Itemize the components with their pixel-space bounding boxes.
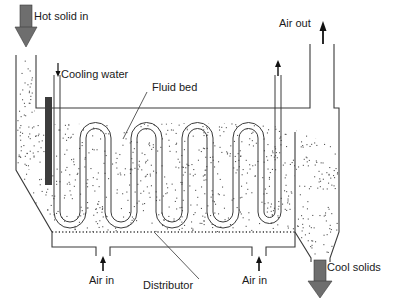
particle bbox=[173, 130, 174, 131]
particle bbox=[133, 218, 134, 219]
particle bbox=[38, 125, 39, 126]
particle bbox=[285, 162, 286, 163]
particle bbox=[330, 225, 331, 226]
particle bbox=[286, 210, 287, 211]
particle bbox=[171, 129, 172, 130]
particle bbox=[309, 233, 310, 234]
particle bbox=[303, 218, 304, 219]
particle bbox=[28, 127, 29, 128]
particle bbox=[299, 186, 300, 187]
particle bbox=[277, 157, 278, 158]
solid-particles-discharge bbox=[295, 128, 340, 258]
particle bbox=[199, 150, 200, 151]
particle bbox=[144, 203, 145, 204]
particle bbox=[259, 223, 260, 224]
particle bbox=[150, 174, 151, 175]
particle bbox=[145, 162, 146, 163]
solid-particles-chute bbox=[17, 59, 35, 171]
particle bbox=[26, 174, 27, 175]
particle bbox=[309, 226, 310, 227]
particle bbox=[222, 187, 223, 188]
particle bbox=[191, 228, 192, 229]
particle bbox=[70, 190, 71, 191]
particle bbox=[330, 232, 331, 233]
particle bbox=[183, 167, 184, 168]
particle bbox=[139, 201, 140, 202]
particle bbox=[161, 124, 162, 125]
particle bbox=[193, 175, 194, 176]
particle bbox=[58, 211, 59, 212]
particle bbox=[324, 216, 325, 217]
particle bbox=[141, 126, 142, 127]
particle bbox=[197, 197, 198, 198]
particle bbox=[262, 177, 263, 178]
particle bbox=[72, 198, 73, 199]
particle bbox=[327, 188, 328, 189]
particle bbox=[243, 169, 244, 170]
particle bbox=[41, 147, 42, 148]
particle bbox=[159, 200, 160, 201]
discharge-cone-left bbox=[295, 232, 311, 262]
particle bbox=[192, 229, 193, 230]
particle bbox=[67, 128, 68, 129]
particle bbox=[149, 145, 150, 146]
particle bbox=[31, 80, 32, 81]
particle bbox=[180, 219, 181, 220]
particle bbox=[308, 219, 309, 220]
particle bbox=[57, 122, 58, 123]
particle bbox=[242, 174, 243, 175]
cool-solids-label: Cool solids bbox=[327, 261, 381, 273]
particle bbox=[311, 144, 312, 145]
particle bbox=[204, 217, 205, 218]
particle bbox=[329, 209, 330, 210]
particle bbox=[325, 215, 326, 216]
particle bbox=[276, 152, 277, 153]
particle bbox=[73, 134, 74, 135]
cooling-water-serpentine bbox=[54, 75, 281, 228]
particle bbox=[246, 160, 247, 161]
particle bbox=[20, 132, 21, 133]
particle bbox=[219, 194, 220, 195]
particle bbox=[223, 131, 224, 132]
immersed-heater-bar bbox=[45, 97, 52, 185]
particle bbox=[230, 145, 231, 146]
particle bbox=[39, 141, 40, 142]
fluid-bed-label: Fluid bed bbox=[152, 81, 197, 93]
distributor-label: Distributor bbox=[143, 279, 193, 291]
particle bbox=[337, 223, 338, 224]
particle bbox=[279, 152, 280, 153]
particle bbox=[269, 177, 270, 178]
particle bbox=[305, 234, 306, 235]
particle bbox=[65, 170, 66, 171]
particle bbox=[23, 145, 24, 146]
particle bbox=[333, 175, 334, 176]
particle bbox=[267, 132, 268, 133]
particle bbox=[205, 213, 206, 214]
particle bbox=[99, 186, 100, 187]
particle bbox=[304, 186, 305, 187]
particle bbox=[17, 120, 18, 121]
particle bbox=[169, 207, 170, 208]
particle bbox=[202, 216, 203, 217]
particle bbox=[168, 216, 169, 217]
particle bbox=[54, 219, 55, 220]
particle bbox=[21, 150, 22, 151]
particle bbox=[147, 174, 148, 175]
particle bbox=[265, 189, 266, 190]
particle bbox=[97, 212, 98, 213]
particle bbox=[268, 202, 269, 203]
particle bbox=[334, 185, 335, 186]
particle bbox=[80, 215, 81, 216]
particle bbox=[220, 135, 221, 136]
particle bbox=[124, 132, 125, 133]
particle bbox=[191, 121, 192, 122]
particle bbox=[30, 99, 31, 100]
particle bbox=[310, 246, 311, 247]
particle bbox=[69, 174, 70, 175]
particle bbox=[284, 190, 285, 191]
particle bbox=[176, 133, 177, 134]
particle bbox=[172, 184, 173, 185]
particle bbox=[151, 165, 152, 166]
particle bbox=[68, 124, 69, 125]
particle bbox=[246, 183, 247, 184]
